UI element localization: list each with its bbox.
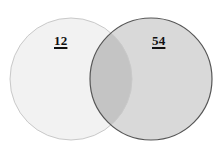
right-set-label: 54 bbox=[152, 34, 165, 47]
venn-canvas bbox=[0, 0, 222, 154]
venn-diagram: 12 54 bbox=[0, 0, 222, 154]
left-set-label: 12 bbox=[54, 34, 67, 47]
